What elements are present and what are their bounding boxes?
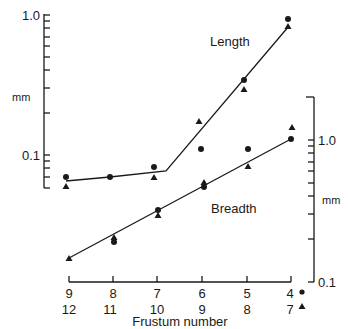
svg-text:12: 12 bbox=[62, 302, 76, 317]
svg-text:5: 5 bbox=[243, 286, 250, 301]
length-label: Length bbox=[210, 34, 250, 49]
x-axis bbox=[69, 276, 291, 282]
x-axis-label: Frustum number bbox=[132, 314, 228, 329]
svg-text:4: 4 bbox=[286, 286, 293, 301]
legend-triangle-icon bbox=[299, 303, 306, 309]
svg-text:8: 8 bbox=[109, 286, 116, 301]
left-y-axis bbox=[44, 14, 50, 188]
svg-text:11: 11 bbox=[103, 302, 117, 317]
length-points bbox=[63, 16, 292, 189]
breadth-fit-line bbox=[69, 139, 291, 258]
left-axis-top-label: 1.0 bbox=[22, 8, 40, 23]
legend-circle-icon bbox=[299, 289, 304, 294]
right-y-axis bbox=[306, 97, 314, 282]
frustum-chart: 1.0 0.1 mm 1.0 0.1 mm 9 8 7 6 5 4 12 bbox=[0, 0, 348, 329]
left-axis-bottom-label: 0.1 bbox=[22, 148, 40, 163]
right-axis-bottom-label: 0.1 bbox=[318, 275, 336, 290]
svg-text:9: 9 bbox=[65, 286, 72, 301]
breadth-points bbox=[66, 124, 296, 261]
left-axis-unit: mm bbox=[12, 91, 30, 103]
svg-text:7: 7 bbox=[153, 286, 160, 301]
svg-text:6: 6 bbox=[198, 286, 205, 301]
right-axis-top-label: 1.0 bbox=[318, 133, 336, 148]
svg-text:8: 8 bbox=[243, 302, 250, 317]
svg-text:7: 7 bbox=[286, 302, 293, 317]
x-tick-labels-row1: 9 8 7 6 5 4 bbox=[65, 286, 293, 301]
breadth-label: Breadth bbox=[211, 201, 257, 216]
right-axis-unit: mm bbox=[322, 194, 340, 206]
